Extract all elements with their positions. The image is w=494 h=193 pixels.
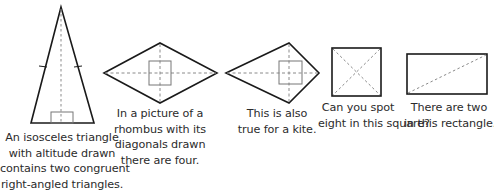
caption-line: rhombus with its [110, 122, 210, 138]
square-figure [332, 48, 381, 96]
triangle-outline [31, 7, 94, 123]
square-caption: Can you spot eight in this square? [318, 100, 398, 131]
caption-line: An isosceles triangle [0, 130, 124, 146]
caption-line: diagonals drawn [110, 137, 210, 153]
kite-caption: This is also true for a kite. [232, 106, 322, 137]
triangle-caption: An isosceles triangle with altitude draw… [0, 130, 124, 192]
rhombus-caption: In a picture of a rhombus with its diago… [110, 106, 210, 168]
caption-line: Can you spot [318, 100, 398, 116]
rectangle-figure [407, 54, 487, 94]
caption-line: In a picture of a [110, 106, 210, 122]
caption-line: right-angled triangles. [0, 177, 124, 193]
caption-line: there are four. [110, 153, 210, 169]
caption-line: This is also [232, 106, 322, 122]
right-angle-marker [51, 112, 73, 123]
caption-line: with altitude drawn [0, 146, 124, 162]
rectangle-caption: There are two in this rectangle. [404, 100, 494, 131]
rhombus-figure [104, 43, 217, 103]
equal-side-tick-right [74, 66, 82, 67]
isosceles-triangle-figure [31, 7, 94, 123]
caption-line: true for a kite. [232, 122, 322, 138]
kite-figure [226, 43, 319, 103]
caption-line: contains two congruent [0, 161, 124, 177]
caption-line: eight in this square? [318, 116, 398, 132]
caption-line: There are two [404, 100, 494, 116]
rectangle-diagonal [408, 55, 486, 93]
caption-line: in this rectangle. [404, 116, 494, 132]
